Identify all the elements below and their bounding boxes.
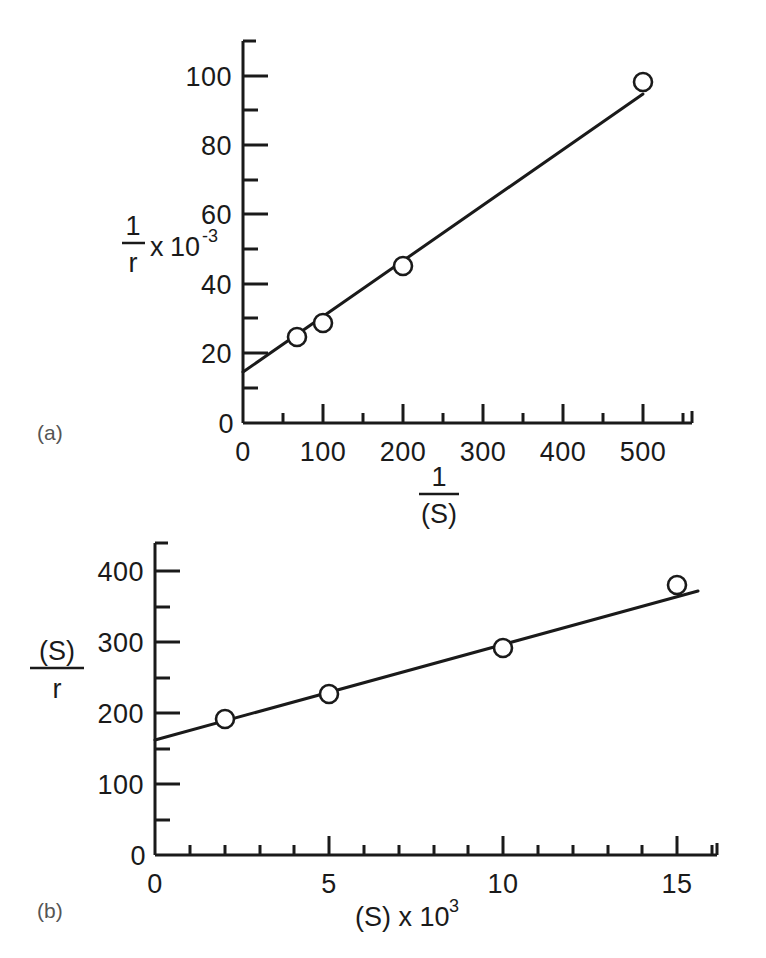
panel-b-data-point bbox=[668, 576, 686, 594]
panel-a-x-axis-title: 1 (S) bbox=[419, 462, 459, 529]
panel-a-x-major-ticks bbox=[323, 404, 643, 423]
panel-b-xtick-label-15: 15 bbox=[661, 869, 692, 899]
panel-a-y-major-ticks bbox=[243, 76, 268, 353]
panel-a-xtick-label-100: 100 bbox=[300, 437, 347, 467]
panel-a-data-points bbox=[288, 73, 652, 346]
panel-a-ytick-label-100: 100 bbox=[185, 62, 232, 92]
panel-a-xtick-label-0: 0 bbox=[235, 437, 251, 467]
panel-a-data-point bbox=[288, 328, 306, 346]
panel-b-y-axis-title: (S) r bbox=[30, 636, 84, 704]
panel-a-data-point bbox=[394, 257, 412, 275]
panel-a-data-point bbox=[314, 314, 332, 332]
panel-b-data-point bbox=[494, 639, 512, 657]
panel-a-xtick-label-500: 500 bbox=[620, 437, 667, 467]
panel-b-x-major-ticks bbox=[329, 836, 677, 855]
panel-b-ytick-label-100: 100 bbox=[97, 770, 144, 800]
panel-a-data-point bbox=[634, 73, 652, 91]
panel-a-ylabel-numerator: 1 bbox=[125, 211, 140, 241]
panel-a-ytick-label-40: 40 bbox=[201, 270, 232, 300]
panel-a-ytick-label-20: 20 bbox=[201, 339, 232, 369]
panel-b-xtick-label-0: 0 bbox=[147, 869, 163, 899]
panel-b-ytick-label-200: 200 bbox=[97, 699, 144, 729]
panel-b-data-point bbox=[320, 685, 338, 703]
panel-a-ylabel-base: 10 bbox=[170, 232, 200, 262]
panel-a-xlabel-numerator: 1 bbox=[431, 462, 446, 492]
panel-a-label: (a) bbox=[37, 421, 63, 444]
panel-b-ytick-label-0: 0 bbox=[130, 841, 146, 871]
panel-b-fit-line bbox=[155, 591, 698, 740]
panel-b-x-axis-title: (S) x 10 3 bbox=[355, 896, 459, 932]
panel-a-xlabel-denominator: (S) bbox=[421, 499, 457, 529]
panel-a-ytick-label-0: 0 bbox=[218, 409, 234, 439]
panel-b-label: (b) bbox=[37, 899, 63, 922]
figure-svg: 100 80 60 40 20 0 0 100 200 300 400 500 bbox=[0, 0, 766, 958]
panel-b-data-point bbox=[216, 710, 234, 728]
panel-a-ylabel-mult-sign: x bbox=[150, 232, 164, 262]
panel-a-xtick-label-400: 400 bbox=[540, 437, 587, 467]
panel-b: 400 300 200 100 0 0 5 10 15 (S) bbox=[30, 543, 717, 932]
panel-b-xtick-label-5: 5 bbox=[321, 869, 337, 899]
panel-b-ytick-label-400: 400 bbox=[97, 557, 144, 587]
figure-container: 100 80 60 40 20 0 0 100 200 300 400 500 bbox=[0, 0, 766, 958]
panel-a-xtick-label-200: 200 bbox=[380, 437, 427, 467]
panel-b-xtick-label-10: 10 bbox=[487, 869, 518, 899]
panel-a-y-minor-ticks bbox=[243, 110, 258, 388]
panel-b-xlabel-base: (S) x 10 bbox=[355, 902, 450, 932]
panel-a-ytick-label-80: 80 bbox=[201, 131, 232, 161]
panel-a-ylabel-denominator: r bbox=[129, 248, 138, 278]
panel-b-ylabel-numerator: (S) bbox=[39, 636, 75, 666]
panel-a-ylabel-exponent: -3 bbox=[202, 226, 218, 246]
panel-b-ylabel-denominator: r bbox=[53, 674, 62, 704]
panel-a: 100 80 60 40 20 0 0 100 200 300 400 500 bbox=[37, 41, 692, 529]
panel-b-xlabel-exponent: 3 bbox=[449, 896, 459, 916]
panel-a-xtick-label-300: 300 bbox=[460, 437, 507, 467]
panel-b-ytick-label-300: 300 bbox=[97, 628, 144, 658]
